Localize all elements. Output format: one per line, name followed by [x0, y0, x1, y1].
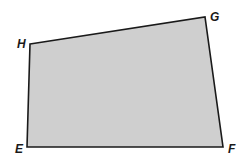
vertex-label-e: E	[15, 142, 24, 156]
vertex-label-g: G	[210, 10, 219, 24]
quadrilateral-efgh	[27, 17, 223, 147]
quadrilateral-diagram: H G F E	[0, 0, 247, 161]
vertex-label-h: H	[17, 37, 26, 51]
vertex-label-f: F	[228, 142, 236, 156]
